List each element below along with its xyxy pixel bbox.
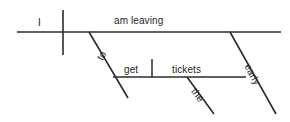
infinitive-slant-line xyxy=(89,32,128,98)
word-verb: am leaving xyxy=(114,15,163,26)
word-object: tickets xyxy=(172,64,201,75)
word-subject: I xyxy=(38,17,41,28)
word-infinitive-verb: get xyxy=(124,64,138,75)
sentence-diagram: I am leaving to get tickets the early xyxy=(0,0,290,122)
